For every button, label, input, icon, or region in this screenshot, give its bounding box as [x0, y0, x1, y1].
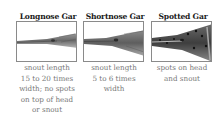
panel-title: Longnose Gar [16, 12, 80, 21]
caption-line: or snout [15, 105, 79, 116]
caption-line: width [82, 84, 146, 95]
panel-shortnose-gar: Shortnose Gar snout length 5 to 6 times … [83, 12, 147, 95]
caption-line: on top of head [15, 95, 79, 106]
caption-line: width; no spots [15, 84, 79, 95]
spotted-gar-head-image [151, 21, 212, 62]
panel-caption: snout length 5 to 6 times width [82, 63, 146, 95]
caption-line: 5 to 6 times [82, 74, 146, 85]
panel-title: Spotted Gar [151, 12, 215, 21]
shortnose-gar-head-image [83, 21, 144, 62]
caption-line: snout length [15, 63, 79, 74]
caption-line: and snout [150, 74, 214, 85]
caption-line: 15 to 20 times [15, 74, 79, 85]
caption-line: spots on head [150, 63, 214, 74]
panel-spotted-gar: Spotted Gar spots on head [151, 12, 215, 84]
panel-title: Shortnose Gar [83, 12, 147, 21]
longnose-gar-head-image [16, 21, 77, 62]
caption-line: snout length [82, 63, 146, 74]
panel-caption: spots on head and snout [150, 63, 214, 84]
panel-longnose-gar: Longnose Gar snout length 15 to 20 times… [16, 12, 80, 116]
panel-caption: snout length 15 to 20 times width; no sp… [15, 63, 79, 116]
